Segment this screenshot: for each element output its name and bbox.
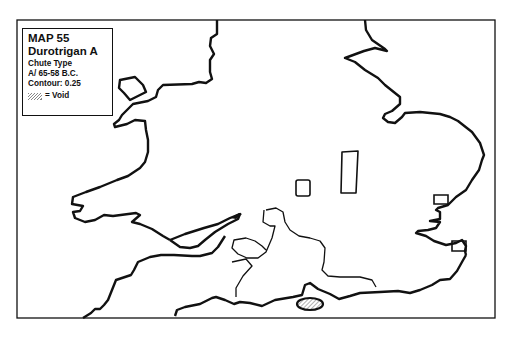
- anglesey-island: [119, 77, 146, 100]
- void-midlands-tall: [341, 151, 358, 193]
- void-label: = Void: [45, 91, 69, 101]
- coin-series: Durotrigan A: [28, 45, 112, 58]
- contour-0.25: [232, 208, 376, 297]
- void-hatch-icon: [28, 93, 42, 100]
- void-midlands-small: [296, 180, 310, 196]
- map-legend: MAP 55 Durotrigan A Chute Type A/ 65-58 …: [22, 28, 113, 116]
- void-east-anglia-coast: [434, 195, 448, 204]
- contour-line: Contour: 0.25: [28, 79, 112, 89]
- void-isle-of-wight: [297, 298, 323, 310]
- date-line: A/ 65-58 B.C.: [28, 69, 112, 79]
- coastline-east: [345, 20, 484, 255]
- type-line: Chute Type: [28, 59, 112, 69]
- coastline-southwest: [83, 236, 225, 318]
- void-legend-row: = Void: [28, 91, 112, 101]
- map-number: MAP 55: [28, 32, 112, 45]
- severn-north-bank: [170, 214, 240, 248]
